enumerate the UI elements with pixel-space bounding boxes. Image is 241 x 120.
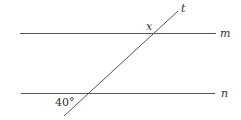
label-m: m bbox=[220, 27, 230, 40]
line-t-transversal bbox=[64, 11, 178, 116]
label-t: t bbox=[181, 2, 186, 15]
diagram-canvas: t m n x 40° bbox=[0, 0, 241, 120]
label-n: n bbox=[221, 87, 228, 100]
angle-label-40: 40° bbox=[55, 96, 75, 109]
angle-label-x: x bbox=[146, 20, 153, 33]
